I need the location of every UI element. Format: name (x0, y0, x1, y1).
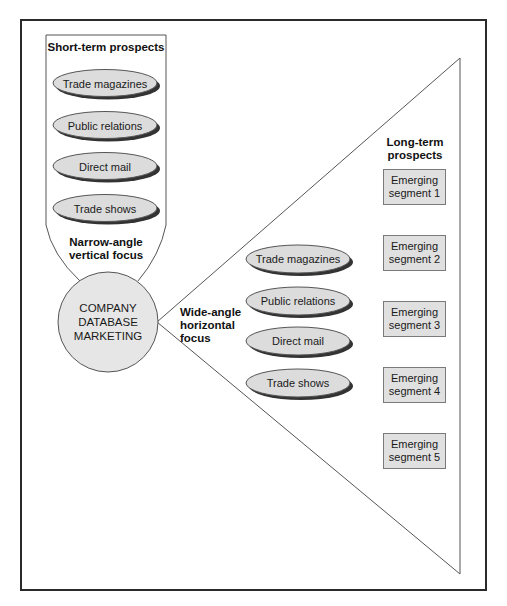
segment-1-line2: segment 1 (389, 187, 440, 200)
long-term-channel-public-relations: Public relations (246, 287, 350, 315)
segment-2-line2: segment 2 (389, 253, 440, 266)
short-term-item-trade-magazines: Trade magazines (53, 70, 157, 97)
wide-angle-line1: Wide-angle (180, 306, 241, 319)
long-term-title-line1: Long-term (380, 136, 450, 149)
segment-2-line1: Emerging (389, 240, 440, 253)
segment-5-line2: segment 5 (389, 451, 440, 464)
center-line1: COMPANY (60, 301, 156, 315)
segment-5-line1: Emerging (389, 438, 440, 451)
short-term-item-trade-shows: Trade shows (53, 195, 157, 222)
narrow-angle-label: Narrow-angle vertical focus (46, 236, 166, 262)
long-term-title: Long-term prospects (380, 136, 450, 162)
long-term-title-line2: prospects (380, 149, 450, 162)
segment-4-line1: Emerging (389, 372, 440, 385)
emerging-segment-2: Emergingsegment 2 (383, 235, 446, 271)
segment-4-line2: segment 4 (389, 385, 440, 398)
emerging-segment-4: Emergingsegment 4 (383, 367, 446, 403)
narrow-angle-line2: vertical focus (46, 249, 166, 262)
narrow-angle-line1: Narrow-angle (46, 236, 166, 249)
segment-3-line1: Emerging (389, 306, 440, 319)
short-term-item-public-relations: Public relations (53, 112, 157, 139)
emerging-segment-5: Emergingsegment 5 (383, 433, 446, 469)
wide-angle-label: Wide-angle horizontal focus (180, 306, 241, 345)
segment-1-line1: Emerging (389, 174, 440, 187)
long-term-channel-trade-magazines: Trade magazines (246, 245, 350, 273)
wide-angle-line2: horizontal (180, 319, 241, 332)
long-term-channel-trade-shows: Trade shows (246, 369, 350, 397)
short-term-title: Short-term prospects (46, 41, 166, 54)
center-line3: MARKETING (60, 329, 156, 343)
short-term-item-direct-mail: Direct mail (53, 153, 157, 180)
segment-3-line2: segment 3 (389, 319, 440, 332)
long-term-channel-direct-mail: Direct mail (246, 327, 350, 355)
emerging-segment-1: Emergingsegment 1 (383, 169, 446, 205)
emerging-segment-3: Emergingsegment 3 (383, 301, 446, 337)
center-line2: DATABASE (60, 315, 156, 329)
wide-angle-line3: focus (180, 332, 241, 345)
company-database-label: COMPANY DATABASE MARKETING (60, 301, 156, 343)
